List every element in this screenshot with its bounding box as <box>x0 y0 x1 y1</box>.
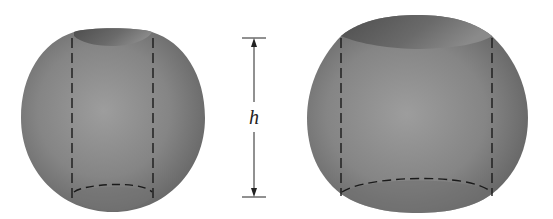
right-sphere-with-hole <box>307 15 528 213</box>
arrowhead-down-icon <box>251 188 257 197</box>
height-dimension: h <box>242 38 266 197</box>
arrowhead-up-icon <box>251 38 257 47</box>
diagram-canvas: h <box>0 0 553 219</box>
left-sphere-with-hole <box>21 28 205 212</box>
height-label: h <box>249 106 259 128</box>
